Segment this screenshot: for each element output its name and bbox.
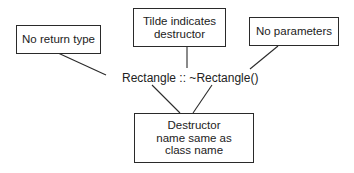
callout-no-return-type: No return type (16, 25, 101, 54)
callout-tilde: Tilde indicates destructor (133, 8, 226, 47)
connector-destructor-name-left (152, 85, 180, 113)
callout-text: Destructor name same as class name (153, 119, 235, 157)
connector-no-return-type (58, 53, 106, 75)
callout-no-parameters: No parameters (249, 17, 339, 46)
callout-text: No parameters (256, 25, 332, 38)
callout-destructor-name: Destructor name same as class name (134, 113, 254, 163)
destructor-signature: Rectangle :: ~Rectangle() (122, 71, 258, 85)
callout-text: No return type (22, 33, 95, 46)
connector-destructor-name-right (193, 85, 212, 113)
connector-no-parameters (250, 46, 278, 69)
callout-text: Tilde indicates destructor (140, 15, 220, 40)
